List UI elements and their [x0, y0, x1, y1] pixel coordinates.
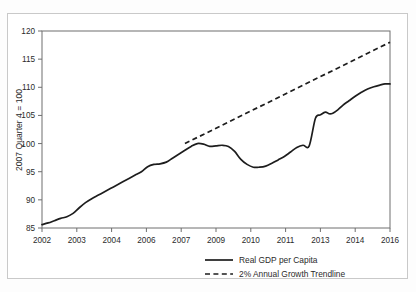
x-tick-label: 2011: [277, 236, 295, 245]
x-tick-label: 2002: [33, 236, 52, 245]
y-tick-label: 115: [22, 55, 35, 64]
y-tick-label: 120: [21, 27, 35, 36]
x-axis-tick-labels: 2002200320042006200720092010201120132014…: [33, 236, 400, 245]
x-tick-label: 2010: [242, 236, 261, 245]
x-tick-label: 2009: [207, 236, 226, 245]
y-axis-title: 2007 Quarter 4 = 100: [14, 89, 24, 171]
y-tick-label: 90: [26, 196, 36, 205]
legend-label-real-gdp: Real GDP per Capita: [239, 255, 318, 265]
x-tick-label: 2014: [346, 236, 365, 245]
plot-area-frame: [42, 31, 390, 228]
chart-legend: Real GDP per Capita 2% Annual Growth Tre…: [205, 255, 345, 279]
y-tick-label: 85: [26, 224, 36, 233]
y-axis-ticks: [38, 31, 42, 228]
gdp-line-chart: 859095100105110115120 200220032004200620…: [0, 0, 416, 292]
x-tick-label: 2003: [68, 236, 87, 245]
legend-label-trendline: 2% Annual Growth Trendline: [239, 269, 345, 279]
x-tick-label: 2016: [381, 236, 400, 245]
x-tick-label: 2006: [137, 236, 156, 245]
y-tick-label: 95: [26, 168, 36, 177]
figure-container: 859095100105110115120 200220032004200620…: [0, 0, 416, 292]
x-axis-ticks: [42, 228, 390, 232]
x-tick-label: 2004: [102, 236, 121, 245]
x-tick-label: 2013: [311, 236, 330, 245]
x-tick-label: 2007: [172, 236, 191, 245]
